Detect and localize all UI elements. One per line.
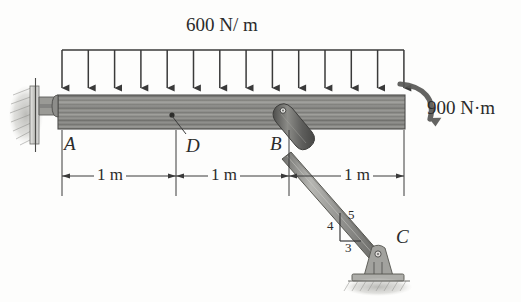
slope-label-horizontal: 3 — [345, 240, 352, 256]
dimension-label-db: 1 m — [208, 165, 240, 185]
point-label-a: A — [64, 133, 76, 155]
point-label-d: D — [186, 135, 200, 157]
wall-face — [30, 78, 39, 152]
pin-support-base-c — [344, 245, 412, 296]
couple-moment-label: 900 N·m — [427, 97, 495, 119]
slope-label-vertical: 4 — [327, 218, 334, 234]
dimension-label-b-end: 1 m — [341, 165, 373, 185]
dimension-lines — [62, 130, 404, 196]
beam-member — [52, 95, 405, 129]
point-label-b: B — [270, 133, 282, 155]
dimension-label-ad: 1 m — [94, 165, 126, 185]
distributed-load-arrows — [62, 50, 404, 88]
figure-canvas: 600 N/ m 900 N·m A D B C 1 m 1 m 1 m 4 3… — [0, 0, 521, 302]
point-label-c: C — [396, 226, 409, 248]
slope-label-hypotenuse: 5 — [348, 207, 355, 223]
beam-diagram-svg — [0, 0, 521, 302]
distributed-load-label: 600 N/ m — [186, 14, 258, 36]
